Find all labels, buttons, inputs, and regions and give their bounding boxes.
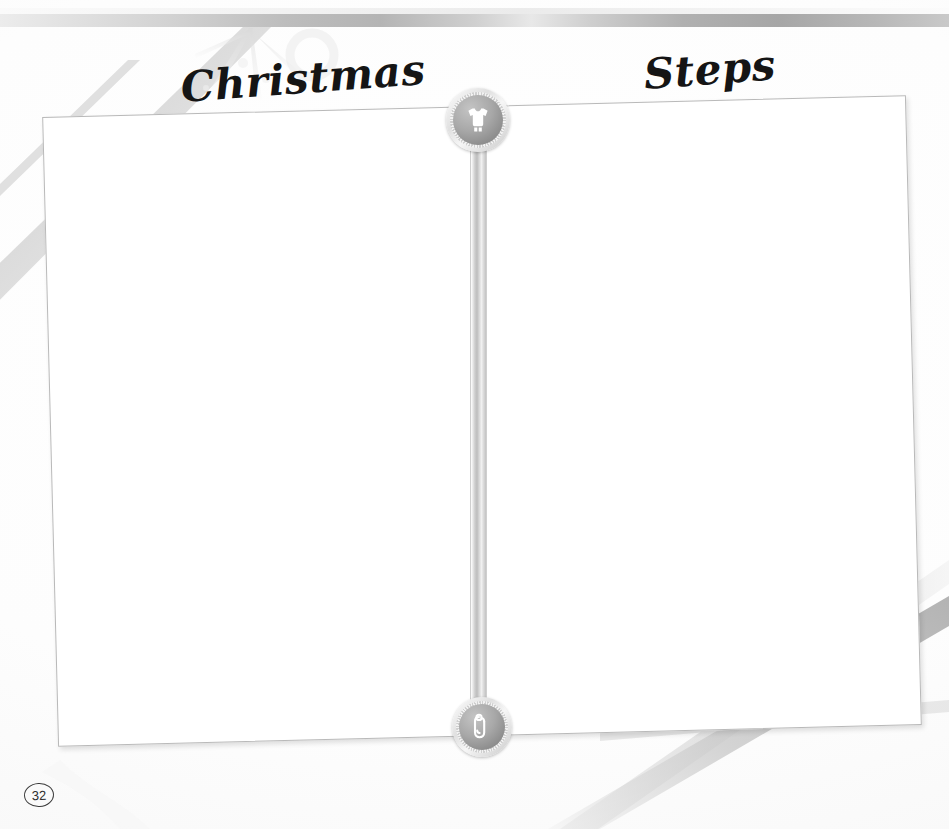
- badge-bottom-safety-pin[interactable]: [452, 697, 512, 757]
- center-divider-pole: [470, 112, 487, 724]
- baby-onesie-icon: [461, 103, 495, 137]
- badge-top-onesie[interactable]: [446, 88, 510, 152]
- safety-pin-icon: [466, 711, 498, 743]
- scrapbook-page: baby first christmas first steps memorie…: [0, 0, 949, 829]
- badge-disc: [459, 704, 505, 750]
- badge-disc: [453, 95, 503, 145]
